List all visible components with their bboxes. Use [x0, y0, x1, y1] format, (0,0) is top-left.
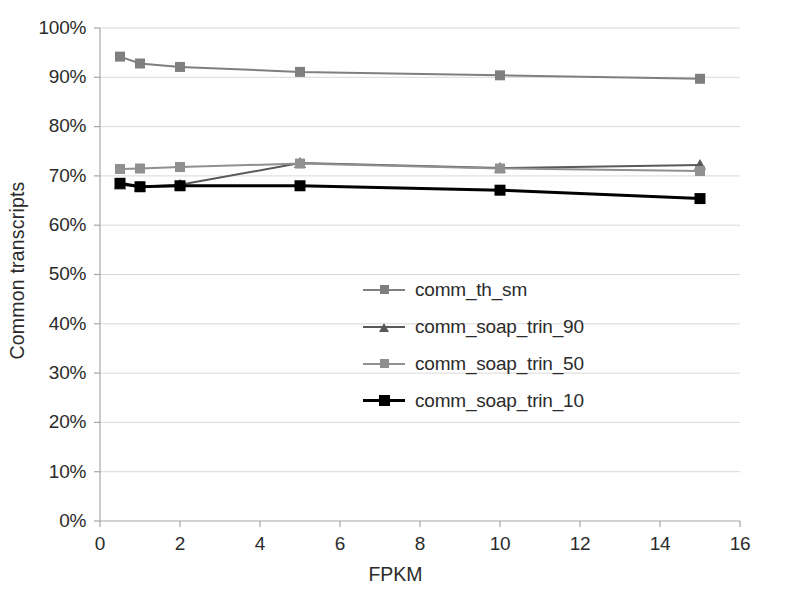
data-point-marker	[135, 58, 145, 68]
data-point-marker	[135, 181, 146, 192]
legend-label: comm_soap_trin_90	[405, 316, 584, 338]
x-tick-label: 0	[95, 533, 105, 555]
y-axis-ticks	[94, 28, 100, 521]
x-axis-ticks	[100, 521, 740, 527]
data-series-layer	[114, 52, 706, 204]
data-point-marker	[495, 70, 505, 80]
legend-item-comm-soap-trin-10: comm_soap_trin_10	[363, 382, 663, 419]
data-point-marker	[115, 52, 125, 62]
data-point-marker	[695, 193, 706, 204]
legend-key-square-icon	[363, 355, 405, 373]
legend-item-comm-soap-trin-90: comm_soap_trin_90	[363, 308, 663, 345]
data-point-marker	[175, 180, 186, 191]
legend-item-comm-th-sm: comm_th_sm	[363, 271, 663, 308]
x-tick-label: 8	[415, 533, 425, 555]
legend-item-comm-soap-trin-50: comm_soap_trin_50	[363, 345, 663, 382]
series-comm_soap_trin_10	[115, 178, 706, 204]
x-tick-label: 10	[490, 533, 511, 555]
x-tick-label: 12	[570, 533, 591, 555]
x-tick-label: 6	[335, 533, 345, 555]
data-point-marker	[495, 185, 506, 196]
data-point-marker	[295, 159, 305, 169]
data-point-marker	[175, 162, 185, 172]
x-tick-label: 4	[255, 533, 265, 555]
x-axis-title: FPKM	[0, 563, 791, 586]
data-point-marker	[495, 164, 505, 174]
x-tick-label: 2	[175, 533, 185, 555]
legend-label: comm_th_sm	[405, 279, 527, 301]
legend-key-triangle-icon	[363, 318, 405, 336]
data-point-marker	[115, 178, 126, 189]
legend-key-square-icon	[363, 281, 405, 299]
data-point-marker	[115, 164, 125, 174]
series-comm_th_sm	[115, 52, 705, 84]
series-line	[120, 183, 700, 198]
data-point-marker	[695, 166, 705, 176]
data-point-marker	[295, 180, 306, 191]
data-point-marker	[135, 164, 145, 174]
legend-label: comm_soap_trin_10	[405, 390, 584, 412]
series-line	[120, 57, 700, 79]
data-point-marker	[175, 62, 185, 72]
data-point-marker	[295, 67, 305, 77]
legend-key-square-icon	[363, 392, 405, 410]
x-tick-label: 16	[730, 533, 751, 555]
data-point-marker	[695, 74, 705, 84]
line-chart: Common transcripts 100% 90% 80% 70% 60% …	[0, 0, 791, 600]
legend-label: comm_soap_trin_50	[405, 353, 584, 375]
chart-legend: comm_th_sm comm_soap_trin_90 comm_soap_t…	[363, 271, 663, 419]
x-tick-label: 14	[650, 533, 671, 555]
